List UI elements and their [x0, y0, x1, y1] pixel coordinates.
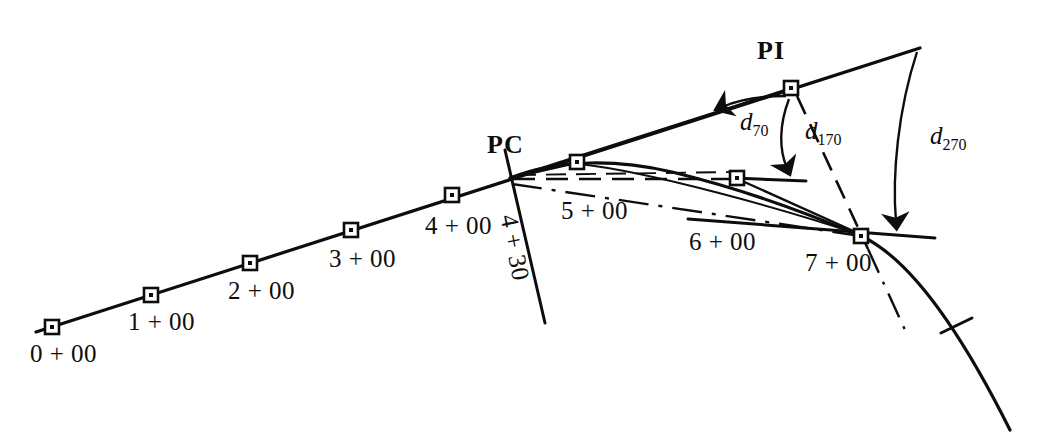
station-label-7-00: 7 + 00 [805, 249, 872, 277]
station-marker [243, 256, 257, 270]
d270-arc [895, 52, 917, 222]
pi-marker [784, 81, 798, 95]
deflection-label-d270: d270 [930, 122, 967, 154]
station-label-5-00: 5 + 00 [561, 197, 628, 225]
d270-sub: 270 [943, 136, 967, 153]
station-marker [730, 171, 744, 185]
d170-sub: 170 [818, 131, 842, 148]
d70-sub: 70 [753, 122, 769, 139]
station-marker [445, 188, 459, 202]
chord-pc-upper-line [516, 172, 735, 175]
d270-base: d [930, 122, 943, 149]
d170-arc [781, 99, 789, 168]
station-label-2-00: 2 + 00 [228, 277, 295, 305]
station-marker [570, 155, 584, 169]
d170-base: d [805, 117, 818, 144]
station-label-6-00: 6 + 00 [689, 228, 756, 256]
station-marker [45, 320, 59, 334]
deflection-label-d170: d170 [805, 117, 842, 149]
station-marker [144, 288, 158, 302]
curve-diagram-figure: 0 + 00 1 + 00 2 + 00 3 + 00 4 + 00 5 + 0… [0, 0, 1054, 444]
station-label-1-00: 1 + 00 [128, 308, 195, 336]
d70-base: d [740, 108, 753, 135]
station-label-3-00: 3 + 00 [329, 245, 396, 273]
pi-label: PI [757, 36, 785, 66]
pc-label: PC [487, 130, 524, 160]
diagram-canvas [0, 0, 1054, 444]
deflection-label-d70: d70 [740, 108, 769, 140]
station-label-0-00: 0 + 00 [30, 340, 97, 368]
station-marker [344, 223, 358, 237]
curve-exit-path [861, 236, 1010, 430]
station-label-4-00: 4 + 00 [425, 212, 492, 240]
tangent-lines [36, 48, 935, 332]
station-marker [854, 229, 868, 243]
